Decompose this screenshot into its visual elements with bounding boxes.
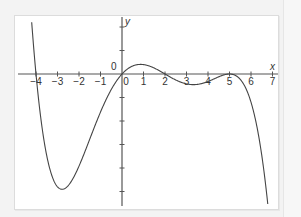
y-axis-label: y — [124, 16, 131, 27]
x-tick-label: 5 — [227, 76, 233, 87]
origin-label: 0 — [111, 61, 117, 72]
x-axis-label: x — [269, 61, 276, 72]
x-tick-label: −1 — [95, 76, 107, 87]
axes — [18, 17, 278, 206]
x-tick-label: −2 — [73, 76, 85, 87]
x-tick-label: 3 — [184, 76, 190, 87]
ticks — [36, 27, 273, 192]
function-curve — [32, 22, 268, 204]
x-tick-label: 6 — [248, 76, 254, 87]
x-tick-label: 7 — [270, 76, 276, 87]
function-plot: −4−3−2−101234567 x y 0 — [0, 0, 301, 217]
x-tick-label: −3 — [52, 76, 64, 87]
x-tick-label: 2 — [162, 76, 168, 87]
x-tick-label: 0 — [123, 76, 129, 87]
x-tick-label: 1 — [141, 76, 147, 87]
